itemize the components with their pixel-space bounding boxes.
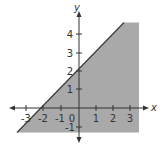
inequality-graph: -3 -2 -1 0 1 2 3 4 3 2 1 -1 x y <box>0 0 165 145</box>
x-axis-left-arrow-icon <box>9 106 15 111</box>
y-tick-label: 2 <box>67 66 73 77</box>
x-tick-label: -2 <box>38 113 48 124</box>
x-axis-label: x <box>150 102 157 113</box>
x-tick-label: 3 <box>127 113 133 124</box>
y-axis-down-arrow-icon <box>77 137 82 143</box>
y-tick-label: 4 <box>67 29 73 40</box>
x-tick-label: -1 <box>55 113 65 124</box>
shaded-region <box>17 23 139 133</box>
y-tick-label: 1 <box>67 84 73 95</box>
x-axis-right-arrow-icon <box>143 106 149 111</box>
x-tick-label: 1 <box>93 113 99 124</box>
x-tick-label: -3 <box>21 113 31 124</box>
x-tick-label: 2 <box>110 113 116 124</box>
y-axis-label: y <box>73 2 81 13</box>
y-tick-label: -1 <box>65 122 75 133</box>
y-tick-label: 3 <box>67 48 73 59</box>
